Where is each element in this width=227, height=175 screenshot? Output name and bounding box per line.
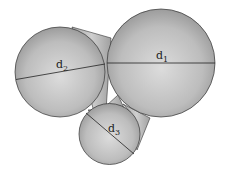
spheres-diagram: d2 d1 d3 <box>0 0 227 175</box>
sphere-2: d2 <box>15 27 105 117</box>
sphere-3: d3 <box>79 104 140 165</box>
sphere-1: d1 <box>107 9 215 117</box>
